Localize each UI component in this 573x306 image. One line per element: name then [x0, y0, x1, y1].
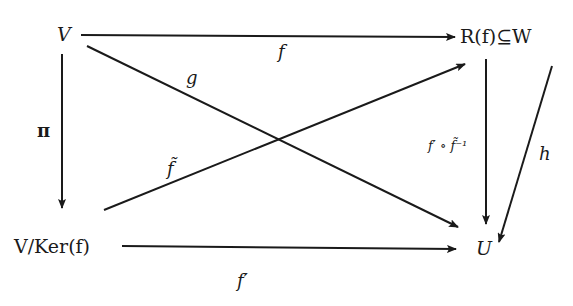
label-composite: f′ ∘ f̃⁻¹ — [428, 139, 467, 152]
label-f: f — [278, 43, 285, 61]
label-g: g — [186, 69, 198, 87]
label-h: h — [539, 145, 551, 163]
label-pi: π — [37, 122, 50, 140]
node-u: U — [476, 239, 492, 258]
node-quotient-v-ker-f: V/Ker(f) — [14, 237, 90, 256]
arrow-g — [87, 46, 458, 227]
label-f-prime: f′ — [237, 272, 248, 290]
node-range-f-subset-w: R(f)⊆W — [460, 27, 532, 46]
arrow-f-tilde — [104, 64, 465, 210]
label-f-tilde: f̃ — [167, 160, 174, 178]
arrow-f-prime — [122, 246, 456, 249]
arrow-f — [81, 35, 455, 37]
node-v: V — [57, 25, 71, 44]
